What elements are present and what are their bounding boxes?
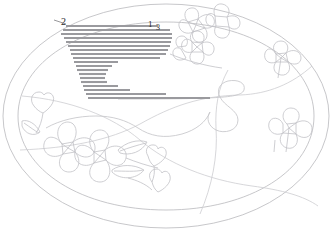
leaf-upper-vein — [120, 143, 146, 151]
lower-field-curve — [22, 96, 318, 206]
petal — [59, 152, 78, 172]
plate-line-art — [0, 0, 332, 233]
petal — [179, 20, 193, 33]
reference-label-2: 2 — [61, 17, 66, 27]
blossom-bottom-a — [44, 122, 95, 172]
leaf-lower-vein — [114, 170, 143, 171]
reference-label-1: 1 — [148, 20, 153, 29]
blossom-upper-b — [206, 4, 240, 38]
blossom-right-lower — [269, 108, 312, 152]
petal — [173, 48, 186, 60]
petal — [274, 62, 290, 75]
petal — [105, 146, 126, 165]
blossom-branch-upper — [170, 54, 222, 68]
petal — [182, 39, 192, 52]
stream-path-lower — [46, 112, 210, 136]
bud-stem-connector — [152, 166, 154, 182]
blossom-upper-a — [179, 8, 215, 42]
leaf-lower — [112, 166, 144, 178]
field-divider-curves — [20, 66, 318, 214]
branch-lower — [128, 178, 152, 190]
right-field-curve — [200, 70, 228, 214]
bud-head — [32, 92, 54, 113]
petal — [265, 49, 276, 63]
blossom-cluster-upper-right — [170, 4, 240, 68]
petal — [269, 118, 283, 134]
blossom-cluster-bottom-left — [44, 122, 171, 192]
petal — [283, 108, 299, 124]
petal — [274, 41, 288, 54]
reference-label-3: 3 — [156, 24, 160, 32]
blossom-right-upper — [265, 41, 301, 78]
upper-field-curve — [20, 66, 312, 150]
bud-stem — [36, 113, 43, 133]
petal — [185, 8, 199, 22]
branch-main — [126, 158, 158, 168]
bud-left — [22, 92, 54, 134]
petal — [192, 28, 207, 42]
stream-path-upper — [118, 80, 244, 131]
petal — [58, 122, 76, 144]
bud-upper-right — [146, 145, 166, 166]
petal — [280, 133, 297, 148]
blossom-upper-c — [182, 31, 215, 64]
stamen — [283, 123, 296, 134]
stem — [274, 128, 289, 152]
petal — [190, 52, 204, 64]
petal — [296, 121, 312, 138]
leaf-upper — [118, 141, 147, 154]
drawing-canvas: 2 1 3 — [0, 0, 332, 233]
stamen — [192, 42, 203, 52]
